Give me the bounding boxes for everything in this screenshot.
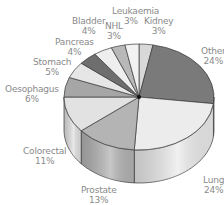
label-stomach: Stomach 5% [33, 57, 71, 77]
label-name: Stomach [33, 57, 71, 67]
label-pancreas: Pancreas 4% [55, 37, 94, 57]
label-pct: 11% [23, 156, 66, 166]
label-name: Kidney [144, 16, 173, 26]
label-nhl: NHL 3% [105, 21, 123, 41]
label-leukaemia-pct: 3% [124, 16, 138, 26]
label-name: Leukaemia [112, 6, 159, 16]
label-other: Other 24% [201, 46, 224, 66]
label-pct: 5% [33, 67, 71, 77]
label-name: Bladder [72, 16, 105, 26]
label-pct: 4% [72, 26, 105, 36]
label-name: Other [201, 46, 224, 56]
label-kidney: Kidney 3% [144, 16, 173, 36]
label-leukaemia: Leukaemia [112, 6, 159, 16]
label-oesophagus: Oesophagus 6% [5, 84, 59, 104]
label-name: Lung [203, 175, 224, 185]
label-pct: 24% [203, 185, 224, 195]
label-prostate: Prostate 13% [81, 185, 116, 205]
label-colorectal: Colorectal 11% [23, 146, 66, 166]
label-pct: 6% [5, 94, 59, 104]
label-pct: 3% [124, 16, 138, 26]
label-name: Pancreas [55, 37, 94, 47]
label-name: NHL [105, 21, 123, 31]
label-pct: 4% [55, 47, 94, 57]
label-pct: 13% [81, 195, 116, 205]
label-pct: 24% [201, 56, 224, 66]
label-name: Oesophagus [5, 84, 59, 94]
label-pct: 3% [144, 26, 173, 36]
pie-center-dot [137, 95, 141, 99]
label-lung: Lung 24% [203, 175, 224, 195]
label-name: Colorectal [23, 146, 66, 156]
label-pct: 3% [105, 31, 123, 41]
label-name: Prostate [81, 185, 116, 195]
label-bladder: Bladder 4% [72, 16, 105, 36]
